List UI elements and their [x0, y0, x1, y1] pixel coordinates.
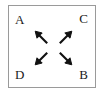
corner-label-a: A: [15, 13, 24, 26]
arrow-up-right-icon: [58, 29, 74, 45]
arrow-down-right-icon: [58, 51, 74, 67]
diagram-bounding-box: A C D B: [8, 5, 96, 88]
figure-root: A C D B: [0, 0, 105, 93]
arrow-up-left-icon: [33, 29, 49, 45]
corner-label-d: D: [15, 68, 24, 81]
corner-label-b: B: [79, 68, 88, 81]
arrow-down-left-icon: [33, 51, 49, 67]
corner-label-c: C: [79, 12, 88, 25]
